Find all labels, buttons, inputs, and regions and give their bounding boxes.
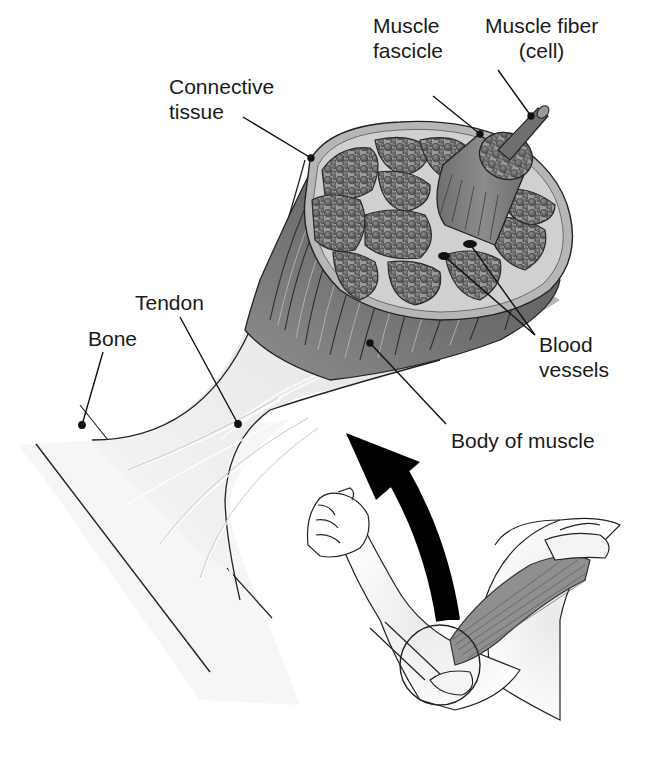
label-muscle-fiber: Muscle fiber (cell) (485, 13, 598, 63)
label-tendon: Tendon (135, 290, 204, 315)
muscle-cross-section (304, 121, 572, 320)
label-bone: Bone (88, 326, 137, 351)
muscle-diagram: Muscle fascicle Muscle fiber (cell) Conn… (0, 0, 655, 759)
label-muscle-fascicle: Muscle fascicle (373, 13, 443, 63)
label-blood-vessels: Blood vessels (539, 332, 609, 382)
arm-inset (308, 488, 621, 720)
label-connective-tissue: Connective tissue (169, 74, 274, 124)
label-body-of-muscle: Body of muscle (451, 428, 595, 453)
